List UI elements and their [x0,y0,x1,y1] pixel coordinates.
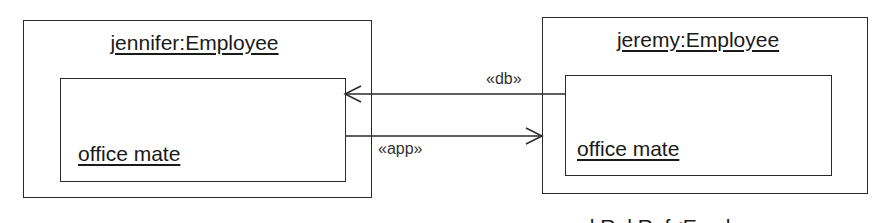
link-arrows [0,0,894,223]
app-stereotype-label: «app» [378,140,423,158]
db-stereotype-label: «db» [486,70,522,88]
